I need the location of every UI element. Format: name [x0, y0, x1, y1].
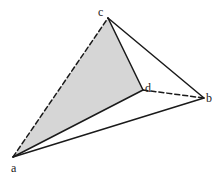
- tetrahedron-diagram: abcd: [0, 0, 221, 179]
- vertex-label-b: b: [206, 91, 212, 105]
- vertex-label-a: a: [11, 161, 17, 175]
- vertex-label-c: c: [98, 5, 103, 19]
- diagram-canvas: abcd: [0, 0, 221, 179]
- vertex-label-d: d: [145, 81, 151, 95]
